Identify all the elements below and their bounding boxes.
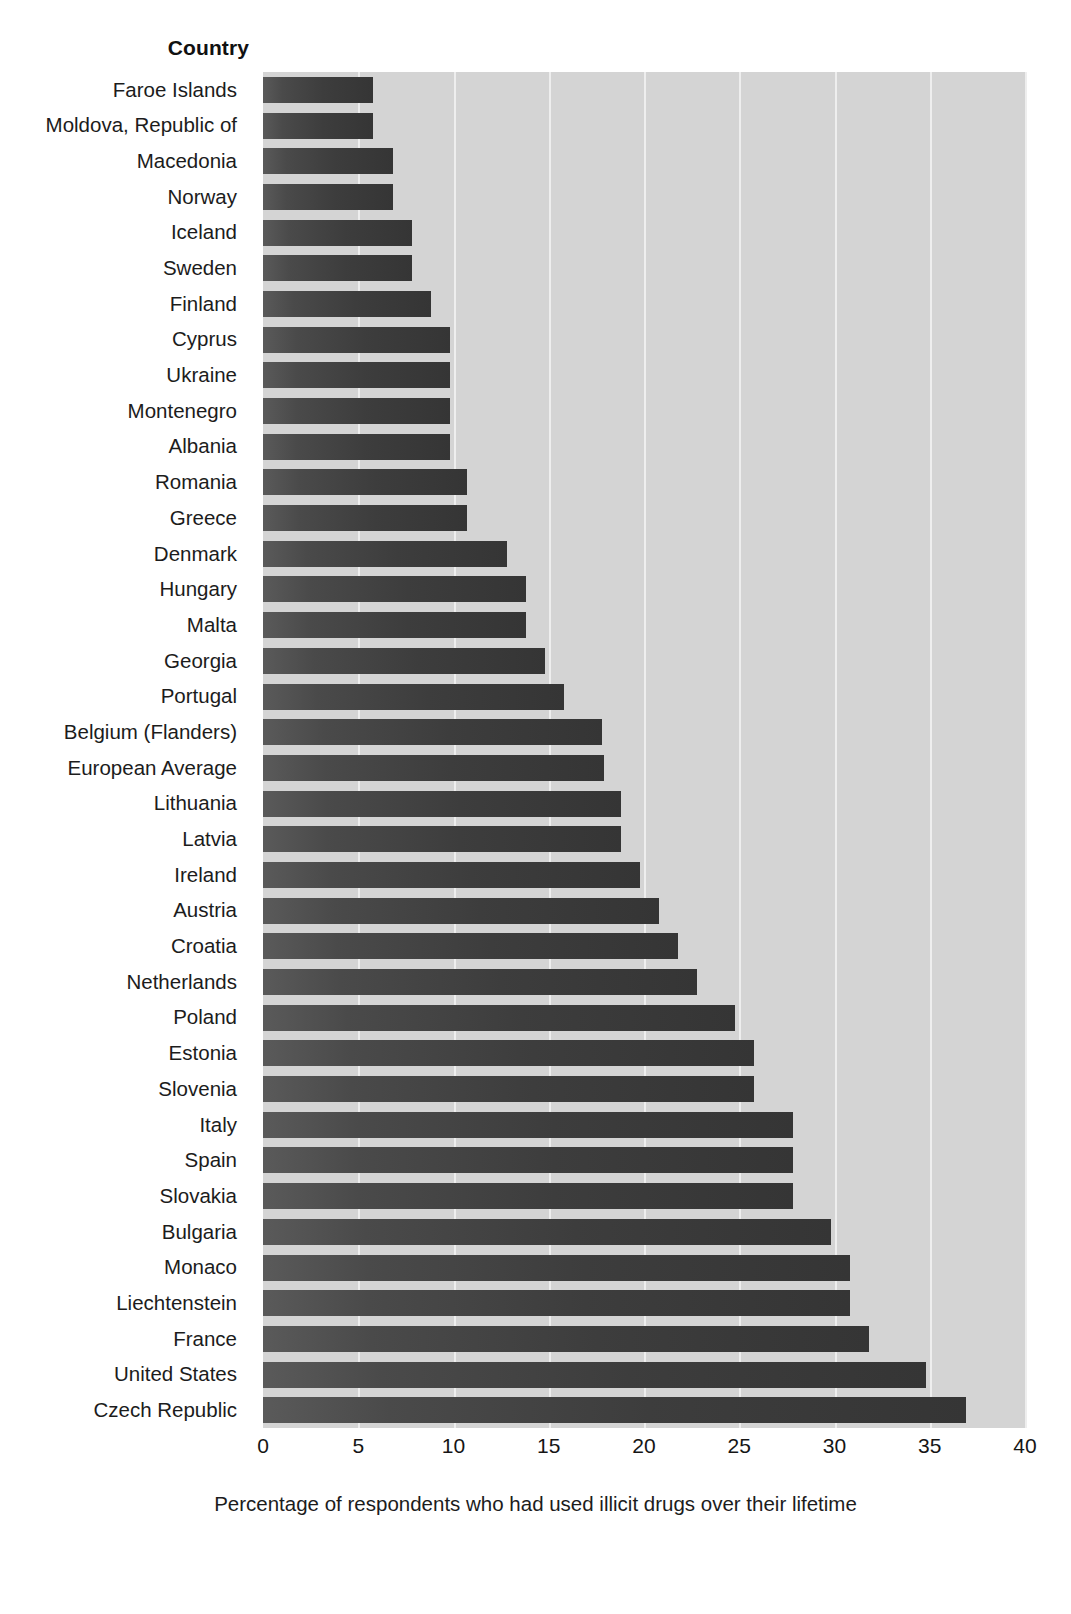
bar-row bbox=[263, 821, 1025, 857]
x-axis-tick-label: 25 bbox=[728, 1434, 751, 1458]
bar bbox=[263, 969, 697, 995]
bar-row bbox=[263, 1036, 1025, 1072]
y-axis-label: Bulgaria bbox=[0, 1214, 249, 1250]
bar-row bbox=[263, 250, 1025, 286]
bar bbox=[263, 862, 640, 888]
bar-row bbox=[263, 429, 1025, 465]
y-axis-label: Iceland bbox=[0, 215, 249, 251]
bar-row bbox=[263, 929, 1025, 965]
y-axis-label: Slovenia bbox=[0, 1071, 249, 1107]
bar-row bbox=[263, 607, 1025, 643]
bar bbox=[263, 398, 450, 424]
bar-chart: Country Faroe IslandsMoldova, Republic o… bbox=[0, 0, 1071, 1614]
bar-row bbox=[263, 215, 1025, 251]
y-axis-label: Croatia bbox=[0, 929, 249, 965]
bar-row bbox=[263, 1250, 1025, 1286]
bar-row bbox=[263, 536, 1025, 572]
bar bbox=[263, 1362, 926, 1388]
y-axis-label: Sweden bbox=[0, 250, 249, 286]
y-axis-label: United States bbox=[0, 1357, 249, 1393]
y-axis-label: Romania bbox=[0, 465, 249, 501]
bar bbox=[263, 1147, 793, 1173]
x-axis-tick-label: 30 bbox=[823, 1434, 846, 1458]
bar bbox=[263, 505, 467, 531]
bar bbox=[263, 755, 604, 781]
y-axis-label: France bbox=[0, 1321, 249, 1357]
bar-row bbox=[263, 322, 1025, 358]
bar-row bbox=[263, 750, 1025, 786]
bar bbox=[263, 898, 659, 924]
x-axis-tick-label: 10 bbox=[442, 1434, 465, 1458]
y-axis-label: Italy bbox=[0, 1107, 249, 1143]
bar-row bbox=[263, 643, 1025, 679]
bar-row bbox=[263, 500, 1025, 536]
x-axis-tick-label: 5 bbox=[352, 1434, 364, 1458]
bar bbox=[263, 469, 467, 495]
y-axis-label: Cyprus bbox=[0, 322, 249, 358]
bar-row bbox=[263, 1357, 1025, 1393]
bar bbox=[263, 184, 393, 210]
bar bbox=[263, 541, 507, 567]
bar-row bbox=[263, 1143, 1025, 1179]
bar bbox=[263, 612, 526, 638]
y-axis-label: Liechtenstein bbox=[0, 1285, 249, 1321]
x-axis-tick-label: 0 bbox=[257, 1434, 269, 1458]
bar-series bbox=[263, 72, 1025, 1428]
x-axis-tick-label: 35 bbox=[918, 1434, 941, 1458]
y-axis-label: Finland bbox=[0, 286, 249, 322]
x-axis-ticks: 0510152025303540 bbox=[263, 1428, 1025, 1472]
bar-row bbox=[263, 179, 1025, 215]
bar-row bbox=[263, 714, 1025, 750]
bar bbox=[263, 77, 373, 103]
y-axis-label: European Average bbox=[0, 750, 249, 786]
y-axis-label: Austria bbox=[0, 893, 249, 929]
bar-row bbox=[263, 679, 1025, 715]
y-axis-label: Lithuania bbox=[0, 786, 249, 822]
bar-row bbox=[263, 108, 1025, 144]
x-axis-tick-label: 15 bbox=[537, 1434, 560, 1458]
bar-row bbox=[263, 1392, 1025, 1428]
bar-row bbox=[263, 572, 1025, 608]
bar bbox=[263, 1290, 850, 1316]
bar bbox=[263, 1112, 793, 1138]
y-axis-label: Moldova, Republic of bbox=[0, 108, 249, 144]
bar-row bbox=[263, 1000, 1025, 1036]
y-axis-label: Denmark bbox=[0, 536, 249, 572]
y-axis-label: Georgia bbox=[0, 643, 249, 679]
bar-row bbox=[263, 1178, 1025, 1214]
bar-row bbox=[263, 786, 1025, 822]
bar bbox=[263, 1326, 869, 1352]
bar-row bbox=[263, 1071, 1025, 1107]
y-axis-label: Albania bbox=[0, 429, 249, 465]
bar-row bbox=[263, 893, 1025, 929]
bar-row bbox=[263, 72, 1025, 108]
bar bbox=[263, 291, 431, 317]
y-axis-label: Belgium (Flanders) bbox=[0, 714, 249, 750]
y-axis-label: Czech Republic bbox=[0, 1392, 249, 1428]
bar-row bbox=[263, 1285, 1025, 1321]
bar-row bbox=[263, 358, 1025, 394]
y-axis-label: Estonia bbox=[0, 1036, 249, 1072]
bar bbox=[263, 1183, 793, 1209]
bar-row bbox=[263, 143, 1025, 179]
y-axis-label: Netherlands bbox=[0, 964, 249, 1000]
bar bbox=[263, 255, 412, 281]
bar bbox=[263, 648, 545, 674]
bar bbox=[263, 113, 373, 139]
bar-row bbox=[263, 1321, 1025, 1357]
bar bbox=[263, 576, 526, 602]
y-axis-label: Greece bbox=[0, 500, 249, 536]
bar-row bbox=[263, 393, 1025, 429]
y-axis-title: Country bbox=[0, 36, 249, 60]
bar bbox=[263, 220, 412, 246]
y-axis-label: Malta bbox=[0, 607, 249, 643]
y-axis-label: Faroe Islands bbox=[0, 72, 249, 108]
plot-area bbox=[263, 72, 1025, 1428]
bar bbox=[263, 1397, 966, 1423]
bar-row bbox=[263, 286, 1025, 322]
bar bbox=[263, 719, 602, 745]
bar bbox=[263, 684, 564, 710]
y-axis-label: Montenegro bbox=[0, 393, 249, 429]
bar bbox=[263, 327, 450, 353]
bar bbox=[263, 362, 450, 388]
